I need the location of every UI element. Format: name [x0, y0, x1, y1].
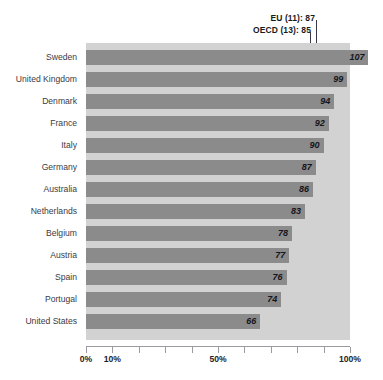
bar-value-label: 76	[86, 270, 287, 285]
axis-tick	[271, 347, 272, 353]
oecd-reference-label: OECD (13): 85	[253, 25, 311, 35]
category-label: Austria	[0, 248, 82, 263]
bar-row: 87	[86, 157, 350, 179]
bar-value-label: 77	[86, 248, 289, 263]
value-axis	[86, 346, 350, 354]
bar-value-label: 83	[86, 204, 305, 219]
axis-tick	[324, 347, 325, 353]
category-label: Sweden	[0, 50, 82, 65]
category-label: Italy	[0, 138, 82, 153]
bar-value-label: 87	[86, 160, 316, 175]
axis-tick-label: 0%	[80, 354, 92, 364]
bar-row: 90	[86, 135, 350, 157]
bar-row: 83	[86, 201, 350, 223]
bar-value-label: 66	[86, 314, 260, 329]
bar-row: 92	[86, 113, 350, 135]
bar-row: 86	[86, 179, 350, 201]
bar-row: 99	[86, 69, 350, 91]
bar-value-label: 74	[86, 292, 281, 307]
bar-chart: EU (11): 87 OECD (13): 85 SwedenUnited K…	[0, 0, 383, 380]
plot-area: 107999492908786837877767466	[86, 43, 350, 340]
axis-tick	[297, 347, 298, 353]
category-label: Germany	[0, 160, 82, 175]
axis-tick	[218, 347, 219, 353]
bar-value-label: 94	[86, 94, 334, 109]
category-label: Spain	[0, 270, 82, 285]
category-label: United Kingdom	[0, 72, 82, 87]
category-label: Australia	[0, 182, 82, 197]
axis-tick	[244, 347, 245, 353]
category-label: Belgium	[0, 226, 82, 241]
bar-row: 74	[86, 289, 350, 311]
axis-tick	[86, 347, 87, 353]
bar-value-label: 92	[86, 116, 329, 131]
axis-tick	[112, 347, 113, 353]
axis-tick	[165, 347, 166, 353]
category-label: Denmark	[0, 94, 82, 109]
bar-value-label: 99	[86, 72, 347, 87]
category-label: Portugal	[0, 292, 82, 307]
axis-tick-label: 10%	[104, 354, 121, 364]
axis-tick-label: 100%	[339, 354, 361, 364]
bar-row: 78	[86, 223, 350, 245]
axis-tick	[139, 347, 140, 353]
bar-row: 77	[86, 245, 350, 267]
category-label: France	[0, 116, 82, 131]
category-axis: SwedenUnited KingdomDenmarkFranceItalyGe…	[0, 43, 82, 340]
bar-row: 107	[86, 47, 350, 69]
bar-row: 66	[86, 311, 350, 333]
axis-tick	[350, 347, 351, 353]
bar-value-label: 78	[86, 226, 292, 241]
bar-value-label: 90	[86, 138, 324, 153]
category-label: United States	[0, 314, 82, 329]
bar-row: 76	[86, 267, 350, 289]
axis-tick-label: 50%	[209, 354, 226, 364]
bar-row: 94	[86, 91, 350, 113]
bar-value-label: 86	[86, 182, 313, 197]
eu-reference-label: EU (11): 87	[270, 13, 315, 23]
bar-value-label: 107	[86, 50, 368, 65]
axis-tick	[192, 347, 193, 353]
category-label: Netherlands	[0, 204, 82, 219]
